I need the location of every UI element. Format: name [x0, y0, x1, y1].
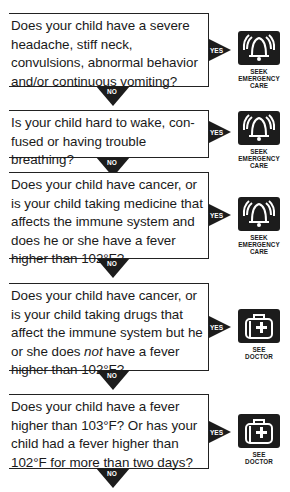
bell-icon [238, 197, 280, 231]
outcome-line: DOCTOR [230, 353, 288, 360]
outcome-label: SEEK EMERGENCY CARE [230, 234, 288, 256]
question-text: Does your child have a severe headache, … [11, 17, 204, 91]
outcome-line: CARE [230, 82, 288, 89]
question-line: Is your child hard to wake, con- [11, 114, 204, 133]
outcome-label: SEEK EMERGENCY CARE [230, 68, 288, 90]
bell-icon [238, 111, 280, 145]
outcome-line: SEE [230, 451, 288, 458]
yes-arrow: YES [209, 121, 231, 143]
no-arrow: NO [96, 258, 130, 278]
svg-text:NO: NO [107, 159, 117, 166]
svg-text:YES: YES [210, 429, 224, 436]
bell-icon [238, 31, 280, 65]
question-box-2: Is your child hard to wake, con- fused o… [9, 110, 209, 158]
outcome-line: SEEK [230, 234, 288, 241]
question-box-1: Does your child have a severe headache, … [9, 13, 209, 87]
yes-arrow: YES [209, 316, 231, 338]
outcome-line: SEEK [230, 68, 288, 75]
svg-text:YES: YES [210, 212, 224, 219]
question-text: Does your child have cancer, or is your … [11, 176, 204, 269]
question-text: Does your child have cancer, or is your … [11, 287, 204, 380]
outcome-line: EMERGENCY [230, 75, 288, 82]
outcome-line: SEE [230, 346, 288, 353]
outcome-label: SEE DOCTOR [230, 451, 288, 465]
svg-text:NO: NO [107, 372, 117, 379]
no-arrow: NO [96, 370, 130, 390]
no-arrow: NO [96, 468, 130, 488]
svg-text:NO: NO [107, 260, 117, 267]
question-box-4: Does your child have cancer, or is your … [9, 283, 209, 371]
outcome-line: EMERGENCY [230, 155, 288, 162]
question-box-5: Does your child have a fever higher than… [9, 394, 209, 469]
outcome-line: DOCTOR [230, 458, 288, 465]
question-emphasis: not [84, 344, 102, 359]
no-arrow: NO [96, 86, 130, 106]
outcome-label: SEE DOCTOR [230, 346, 288, 360]
svg-text:YES: YES [210, 47, 224, 54]
yes-arrow: YES [209, 39, 231, 61]
svg-text:NO: NO [107, 470, 117, 477]
svg-text:NO: NO [107, 88, 117, 95]
outcome-line: CARE [230, 248, 288, 255]
medical-bag-icon [238, 414, 280, 448]
outcome-line: CARE [230, 162, 288, 169]
outcome-label: SEEK EMERGENCY CARE [230, 148, 288, 170]
yes-arrow: YES [209, 421, 231, 443]
svg-text:YES: YES [210, 324, 224, 331]
outcome-line: EMERGENCY [230, 241, 288, 248]
outcome-line: SEEK [230, 148, 288, 155]
question-box-3: Does your child have cancer, or is your … [9, 172, 209, 259]
medical-bag-icon [238, 309, 280, 343]
yes-arrow: YES [209, 204, 231, 226]
svg-text:YES: YES [210, 129, 224, 136]
question-text: Does your child have a fever higher than… [11, 398, 204, 472]
